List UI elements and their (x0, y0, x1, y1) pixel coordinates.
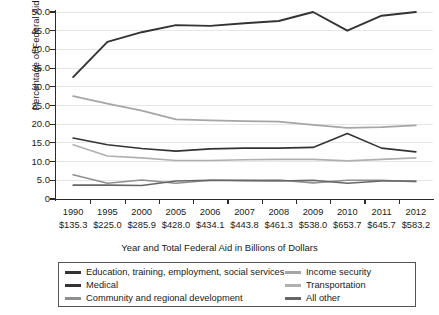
y-tick-label: 20.0 (4, 119, 50, 129)
x-tick-mark (90, 199, 91, 204)
y-tick-label: 15.0 (4, 138, 50, 148)
x-axis-year-label: 2012 (399, 206, 433, 218)
legend-item[interactable]: Medical (65, 279, 284, 292)
x-axis-amount-label: $645.7 (364, 219, 398, 231)
x-axis-amount-label: $653.7 (330, 219, 364, 231)
legend-label: Transportation (306, 281, 366, 290)
x-axis-amount-label: $428.0 (159, 219, 193, 231)
x-tick-mark (399, 199, 400, 204)
x-axis-year-label: 2008 (262, 206, 296, 218)
x-axis-category: 2010$653.7 (330, 206, 364, 231)
x-axis-category: 1995$225.0 (90, 206, 124, 231)
legend-item[interactable]: Education, training, employment, social … (65, 266, 284, 279)
legend-item[interactable]: Transportation (285, 279, 371, 292)
legend-swatch-line-icon (65, 284, 81, 286)
x-tick-mark (125, 199, 126, 204)
x-tick-mark (364, 199, 365, 204)
x-axis-category: 2012$583.2 (399, 206, 433, 231)
line-chart: Percentage of Federal Aid 05.010.015.020… (0, 0, 439, 315)
x-axis-year-label: 2010 (330, 206, 364, 218)
legend-label: All other (306, 294, 340, 303)
legend-label: Medical (86, 281, 118, 290)
x-axis-year-label: 2009 (296, 206, 330, 218)
x-axis-title: Year and Total Federal Aid in Billions o… (0, 242, 439, 253)
y-tick-label: 30.0 (4, 82, 50, 92)
series-line (73, 12, 416, 77)
y-tick-label: 45.0 (4, 26, 50, 36)
y-tick-label: 40.0 (4, 44, 50, 54)
legend-item[interactable]: Income security (285, 266, 371, 279)
y-tick-label: 10.0 (4, 157, 50, 167)
series-line (73, 96, 416, 128)
y-tick-label: 5.0 (4, 175, 50, 185)
x-axis-amount-label: $583.2 (399, 219, 433, 231)
x-axis-line (55, 199, 434, 200)
x-axis-year-label: 2006 (193, 206, 227, 218)
legend-swatch-line-icon (285, 297, 301, 299)
x-axis-category: 2011$645.7 (364, 206, 398, 231)
x-axis-year-label: 2005 (159, 206, 193, 218)
x-axis-amount-label: $443.8 (227, 219, 261, 231)
series-lines (56, 12, 433, 199)
legend-item[interactable]: All other (285, 292, 371, 305)
legend-swatch-line-icon (65, 271, 81, 274)
x-axis-amount-label: $285.9 (125, 219, 159, 231)
series-line (73, 134, 416, 152)
x-axis-category: 2005$428.0 (159, 206, 193, 231)
y-tick-label: 25.0 (4, 101, 50, 111)
x-axis-category: 2009$538.0 (296, 206, 330, 231)
x-axis-category: 2000$285.9 (125, 206, 159, 231)
y-tick-label: 0 (4, 194, 50, 204)
legend-label: Income security (306, 268, 371, 277)
x-tick-mark (330, 199, 331, 204)
legend-swatch-line-icon (285, 284, 301, 286)
y-axis-tick-labels: 05.010.015.020.025.030.035.040.045.050.0 (0, 0, 50, 215)
x-tick-mark (159, 199, 160, 204)
x-axis-amount-label: $461.3 (262, 219, 296, 231)
y-tick-label: 50.0 (4, 7, 50, 17)
x-tick-mark (262, 199, 263, 204)
x-axis-amount-label: $434.1 (193, 219, 227, 231)
x-axis-category: 2007$443.8 (227, 206, 261, 231)
legend-label: Education, training, employment, social … (86, 268, 284, 277)
x-tick-mark (193, 199, 194, 204)
legend-label: Community and regional development (86, 294, 243, 303)
legend: Education, training, employment, social … (58, 262, 416, 307)
x-axis-year-label: 2011 (364, 206, 398, 218)
x-axis-year-label: 1995 (90, 206, 124, 218)
x-axis-year-label: 2007 (227, 206, 261, 218)
x-axis-amount-label: $135.3 (56, 219, 90, 231)
x-axis-amount-label: $225.0 (90, 219, 124, 231)
legend-swatch-line-icon (65, 297, 81, 299)
x-axis-category: 2006$434.1 (193, 206, 227, 231)
x-axis-category: 2008$461.3 (262, 206, 296, 231)
y-tick-label: 35.0 (4, 63, 50, 73)
x-axis-amount-label: $538.0 (296, 219, 330, 231)
legend-column-right: Income securityTransportationAll other (285, 266, 371, 305)
x-axis-category: 1990$135.3 (56, 206, 90, 231)
legend-column-left: Education, training, employment, social … (65, 266, 284, 305)
x-tick-mark (296, 199, 297, 204)
legend-swatch-line-icon (285, 271, 301, 273)
x-axis-year-label: 2000 (125, 206, 159, 218)
legend-item[interactable]: Community and regional development (65, 292, 284, 305)
x-axis-year-label: 1990 (56, 206, 90, 218)
x-tick-mark (227, 199, 228, 204)
